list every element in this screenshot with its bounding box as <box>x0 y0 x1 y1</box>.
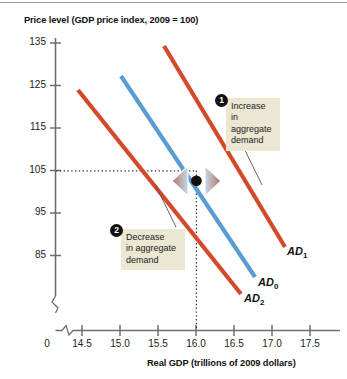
x-tick-label-17-5: 17.5 <box>290 338 330 349</box>
x-tick-label-16-5: 16.5 <box>214 338 254 349</box>
annotation-callout-decrease: Decrease in aggregate demand <box>121 229 185 270</box>
x-tick-label-16-0: 16.0 <box>176 338 216 349</box>
y-axis-break-icon <box>52 296 58 313</box>
annotation-badge-1: 1 <box>215 94 228 107</box>
y-tick-label-135: 135 <box>16 36 46 47</box>
curve-label-ad2: AD2 <box>244 292 264 307</box>
curve-label-ad1-base: AD <box>287 245 303 257</box>
x-tick-label-15-5: 15.5 <box>138 338 178 349</box>
y-tick-label-85: 85 <box>16 249 46 260</box>
x-tick-label-14-5: 14.5 <box>62 338 102 349</box>
y-tick-label-115: 115 <box>16 121 46 132</box>
annotation-callout-increase: Increase in aggregate demand <box>226 98 280 151</box>
curve-label-ad0: AD0 <box>258 276 278 291</box>
chart-plot-area <box>0 0 347 379</box>
y-tick-label-125: 125 <box>16 79 46 90</box>
x-axis-break-icon <box>56 326 74 336</box>
x-tick-label-15-0: 15.0 <box>100 338 140 349</box>
curve-label-ad1: AD1 <box>287 245 307 260</box>
y-axis-title: Price level (GDP price index, 2009 = 100… <box>24 15 198 25</box>
curve-label-ad2-sub: 2 <box>260 298 264 307</box>
curve-label-ad1-sub: 1 <box>303 251 307 260</box>
curve-label-ad0-sub: 0 <box>274 282 278 291</box>
increase-arrow <box>205 166 221 196</box>
origin-label: 0 <box>39 338 55 349</box>
equilibrium-point <box>191 175 202 186</box>
x-axis-title: Real GDP (trillions of 2009 dollars) <box>147 358 296 368</box>
curve-label-ad2-base: AD <box>244 292 260 304</box>
aggregate-demand-figure: Price level (GDP price index, 2009 = 100… <box>0 0 347 379</box>
curve-label-ad0-base: AD <box>258 276 274 288</box>
x-tick-label-17-0: 17.0 <box>252 338 292 349</box>
y-tick-label-105: 105 <box>16 164 46 175</box>
annotation-badge-2: 2 <box>110 224 123 237</box>
y-tick-label-95: 95 <box>16 206 46 217</box>
